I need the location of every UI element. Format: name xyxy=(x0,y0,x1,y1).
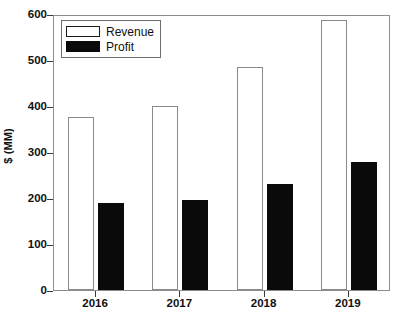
bar-revenue-2019 xyxy=(321,20,347,290)
legend-item-profit: Profit xyxy=(66,39,154,54)
y-axis-tick-label: 100 xyxy=(13,239,47,251)
bar-revenue-2017 xyxy=(152,106,178,290)
y-axis-tick-label: 200 xyxy=(13,193,47,205)
y-axis-tick-mark xyxy=(47,291,53,292)
y-axis-tick-label: 0 xyxy=(13,285,47,297)
x-axis-tick-label: 2017 xyxy=(139,298,219,310)
y-axis-tick-label: 300 xyxy=(13,147,47,159)
bar-chart: $ (MM) 0100200300400500600 2016201720182… xyxy=(0,0,398,321)
x-axis-tick-label: 2019 xyxy=(308,298,388,310)
chart-legend: Revenue Profit xyxy=(61,20,161,58)
legend-label-revenue: Revenue xyxy=(106,26,154,38)
bar-profit-2017 xyxy=(182,200,208,290)
legend-item-revenue: Revenue xyxy=(66,24,154,39)
y-axis-tick-label: 400 xyxy=(13,101,47,113)
bar-revenue-2016 xyxy=(68,117,94,290)
legend-swatch-profit-icon xyxy=(66,41,100,52)
y-axis-tick-label: 500 xyxy=(13,55,47,67)
bar-profit-2018 xyxy=(267,184,293,290)
legend-label-profit: Profit xyxy=(106,41,134,53)
y-axis-tick-label: 600 xyxy=(13,9,47,21)
x-axis-tick-label: 2016 xyxy=(55,298,135,310)
y-axis-tick-labels: 0100200300400500600 xyxy=(11,0,47,321)
legend-swatch-revenue-icon xyxy=(66,26,100,37)
bar-revenue-2018 xyxy=(237,67,263,290)
x-axis-tick-label: 2018 xyxy=(224,298,304,310)
bar-profit-2016 xyxy=(98,203,124,290)
bar-profit-2019 xyxy=(351,162,377,290)
